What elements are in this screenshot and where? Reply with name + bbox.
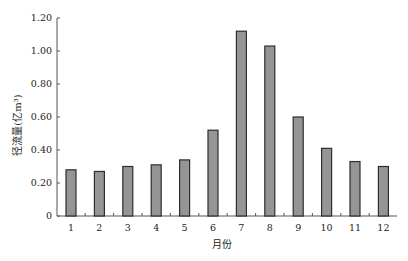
- bar-month-8: [265, 46, 275, 216]
- x-tick-label: 8: [260, 222, 280, 233]
- bar-month-10: [322, 148, 332, 216]
- bar-month-5: [180, 160, 190, 216]
- y-tick-label: 0.60: [31, 112, 52, 122]
- x-tick-label: 3: [118, 222, 138, 233]
- bar-month-7: [236, 31, 246, 216]
- x-tick-label: 4: [146, 222, 166, 233]
- x-tick-label: 10: [317, 222, 337, 233]
- x-tick-label: 9: [288, 222, 308, 233]
- x-tick-label: 11: [345, 222, 365, 233]
- x-tick-label: 5: [175, 222, 195, 233]
- bar-month-3: [123, 167, 133, 217]
- x-tick-label: 2: [89, 222, 109, 233]
- bar-month-1: [66, 170, 76, 216]
- bar-month-6: [208, 130, 218, 216]
- x-tick-label: 12: [373, 222, 393, 233]
- x-tick-label: 6: [203, 222, 223, 233]
- bar-month-9: [293, 117, 303, 216]
- bar-month-12: [378, 167, 388, 217]
- y-tick-label: 1.20: [31, 13, 52, 23]
- y-tick-label: 1.00: [31, 46, 52, 56]
- y-tick-label: 0.40: [31, 145, 52, 155]
- runoff-bar-chart: 00.200.400.600.801.001.20 12345678910111…: [0, 0, 408, 261]
- bar-month-4: [151, 165, 161, 216]
- x-tick-label: 7: [231, 222, 251, 233]
- x-axis-label: 月份: [212, 236, 232, 251]
- y-tick-label: 0.80: [31, 79, 52, 89]
- bar-month-2: [94, 171, 104, 216]
- x-tick-label: 1: [61, 222, 81, 233]
- bar-month-11: [350, 162, 360, 216]
- y-axis-label: 径流量(亿m³): [9, 94, 24, 155]
- y-tick-label: 0: [46, 211, 52, 221]
- y-tick-label: 0.20: [31, 178, 52, 188]
